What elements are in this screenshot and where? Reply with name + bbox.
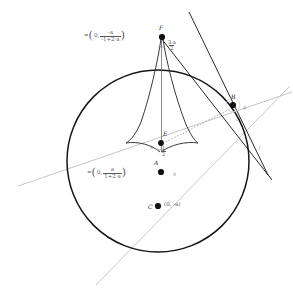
tangent-line-F-B: [161, 38, 272, 180]
point-label-E: E: [163, 131, 167, 137]
gray-line-steep: [96, 86, 290, 285]
point-label-C: C: [148, 204, 153, 210]
point-A[interactable]: [158, 169, 164, 175]
point-label-F: F: [159, 25, 163, 31]
tangent-line-secondary: [189, 12, 268, 175]
line-label-k: k: [150, 145, 153, 150]
line-label-i: i: [236, 117, 238, 122]
formula-A-coordinates: = ( 0, a 1+2·a ): [87, 167, 126, 179]
formula-F-denominator: -1+2·a: [100, 36, 121, 43]
formula-A-close-paren: ): [122, 169, 126, 178]
point-C[interactable]: [155, 203, 161, 209]
point-label-B: B: [231, 94, 235, 100]
line-label-g: g: [243, 105, 246, 110]
cusp-curve-left: [126, 39, 161, 143]
segment-length-E: 1 2: [161, 146, 166, 157]
line-label-j: j: [259, 145, 261, 150]
formula-C-coordinates: (0, -a): [164, 202, 180, 208]
segment-length-F: 3·a 2: [167, 40, 177, 51]
cusp-curve-right: [163, 39, 198, 143]
geometry-svg: [0, 0, 293, 288]
formula-A-fraction: a 1+2·a: [103, 167, 122, 179]
figure-canvas: F E A C B = ( 0, -a -1+2·a ) = ( 0, a 1+…: [0, 0, 293, 288]
formula-A-denominator: 1+2·a: [103, 173, 122, 180]
dotted-chord: [160, 107, 234, 145]
line-label-h: h: [173, 172, 176, 177]
cusp-curve-bottom-right: [161, 142, 198, 152]
point-B[interactable]: [230, 102, 236, 108]
formula-F-fraction: -a -1+2·a: [100, 30, 121, 42]
segment-E-denominator: 2: [161, 151, 166, 157]
formula-F-first-coord: 0,: [93, 33, 100, 39]
segment-F-denominator: 2: [169, 45, 174, 51]
formula-F-close-paren: ): [121, 32, 125, 41]
point-label-A: A: [154, 160, 158, 166]
point-F[interactable]: [159, 34, 165, 40]
formula-F-coordinates: = ( 0, -a -1+2·a ): [84, 30, 125, 42]
formula-A-first-coord: 0,: [96, 170, 103, 176]
